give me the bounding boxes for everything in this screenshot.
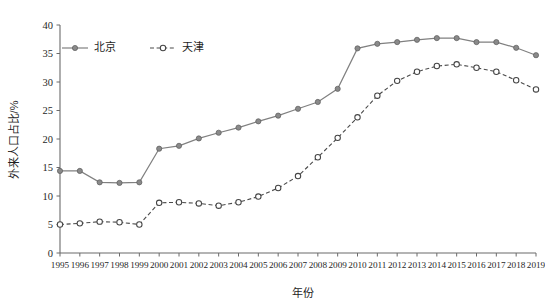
y-axis-tick-label: 40 <box>43 20 54 31</box>
data-point <box>57 222 62 227</box>
data-point <box>395 40 400 45</box>
data-point <box>176 143 181 148</box>
data-point <box>137 222 142 227</box>
data-point <box>315 99 320 104</box>
x-axis-tick-label: 2000 <box>150 260 169 270</box>
data-point <box>157 146 162 151</box>
data-point <box>315 155 320 160</box>
y-axis-tick-label: 25 <box>43 105 54 116</box>
x-axis-tick-label: 2013 <box>408 260 427 270</box>
x-axis-tick-label: 1997 <box>90 260 109 270</box>
data-point <box>434 63 439 68</box>
data-point <box>256 119 261 124</box>
data-point <box>355 46 360 51</box>
data-point <box>355 115 360 120</box>
y-axis-tick-label: 0 <box>48 248 53 259</box>
y-axis-tick-label: 15 <box>43 162 54 173</box>
x-axis-tick-label: 2002 <box>190 260 209 270</box>
data-point <box>295 173 300 178</box>
x-axis-tick-label: 2005 <box>249 260 268 270</box>
x-axis-tick-label: 2009 <box>328 260 347 270</box>
data-point <box>256 194 261 199</box>
x-axis-tick-label: 1995 <box>51 260 70 270</box>
x-axis-tick-label: 1998 <box>110 260 129 270</box>
legend-marker <box>72 45 77 50</box>
data-point <box>196 201 201 206</box>
x-axis-tick-label: 2004 <box>229 260 248 270</box>
data-point <box>454 62 459 67</box>
data-point <box>494 69 499 74</box>
x-axis-tick-label: 2011 <box>368 260 386 270</box>
x-axis-tick-label: 1999 <box>130 260 149 270</box>
x-axis-tick-label: 2015 <box>447 260 466 270</box>
x-axis-tick-label: 2019 <box>527 260 545 270</box>
data-point <box>137 180 142 185</box>
y-axis-title: 外来人口占比/% <box>7 100 20 179</box>
data-point <box>156 200 161 205</box>
chart-container: 0510152025303540 19951996199719981999200… <box>0 0 545 303</box>
data-point <box>117 180 122 185</box>
data-point <box>117 220 122 225</box>
x-axis-tick-label: 2012 <box>388 260 407 270</box>
data-point <box>533 87 538 92</box>
x-axis-tick-label: 2006 <box>269 260 288 270</box>
plot-background <box>0 0 545 303</box>
data-point <box>216 130 221 135</box>
data-point <box>57 168 62 173</box>
data-point <box>474 40 479 45</box>
y-axis-tick-label: 35 <box>43 48 54 59</box>
data-point <box>514 45 519 50</box>
x-axis-tick-label: 2016 <box>467 260 486 270</box>
data-point <box>434 36 439 41</box>
data-point <box>276 113 281 118</box>
legend-marker <box>160 45 165 50</box>
data-point <box>77 221 82 226</box>
x-axis-tick-label: 2003 <box>209 260 228 270</box>
data-point <box>513 78 518 83</box>
data-point <box>295 106 300 111</box>
data-point <box>494 40 499 45</box>
data-point <box>335 86 340 91</box>
data-point <box>196 136 201 141</box>
x-axis-tick-label: 1996 <box>71 260 90 270</box>
data-point <box>216 203 221 208</box>
data-point <box>454 36 459 41</box>
data-point <box>97 219 102 224</box>
data-point <box>97 180 102 185</box>
data-point <box>394 78 399 83</box>
data-point <box>236 200 241 205</box>
y-axis-tick-label: 10 <box>43 191 54 202</box>
data-point <box>77 168 82 173</box>
x-axis-title: 年份 <box>292 286 314 299</box>
legend-label: 天津 <box>182 41 204 53</box>
data-point <box>335 135 340 140</box>
y-axis-tick-label: 5 <box>48 219 53 230</box>
data-point <box>414 37 419 42</box>
data-point <box>474 65 479 70</box>
data-point <box>414 69 419 74</box>
data-point <box>375 41 380 46</box>
x-axis-tick-label: 2017 <box>487 260 506 270</box>
y-axis-tick-label: 30 <box>43 77 54 88</box>
x-axis-tick-label: 2008 <box>309 260 328 270</box>
x-axis-tick-label: 2007 <box>289 260 308 270</box>
data-point <box>275 185 280 190</box>
x-axis-tick-label: 2001 <box>170 260 189 270</box>
x-axis-tick-label: 2010 <box>348 260 367 270</box>
data-point <box>176 200 181 205</box>
data-point <box>375 93 380 98</box>
y-axis-tick-label: 20 <box>43 134 54 145</box>
x-axis-tick-label: 2014 <box>428 260 447 270</box>
x-axis-tick-label: 2018 <box>507 260 526 270</box>
legend-label: 北京 <box>94 40 116 53</box>
line-chart: 0510152025303540 19951996199719981999200… <box>0 0 545 303</box>
data-point <box>533 53 538 58</box>
data-point <box>236 125 241 130</box>
